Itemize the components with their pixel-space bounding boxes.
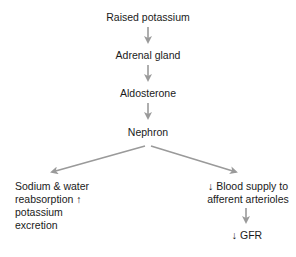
node-text-line: ↓ Blood supply to: [207, 180, 289, 193]
arrow-right-branch: [151, 146, 236, 172]
node-text-line: afferent arterioles: [207, 193, 289, 206]
node-aldosterone: Aldosterone: [120, 87, 176, 100]
node-adrenal-gland: Adrenal gland: [116, 49, 181, 62]
node-blood-supply: ↓ Blood supply to afferent arterioles: [207, 180, 289, 206]
node-gfr: ↓ GFR: [232, 229, 262, 242]
node-text-line: Sodium & water: [15, 180, 89, 193]
node-nephron: Nephron: [128, 126, 168, 139]
node-text-line: reabsorption ↑: [15, 193, 89, 206]
arrow-left-branch: [52, 146, 145, 172]
node-text-line: potassium: [15, 206, 89, 219]
node-text-line: excretion: [15, 219, 89, 232]
node-raised-potassium: Raised potassium: [106, 11, 189, 24]
node-sodium-water-reabsorption: Sodium & water reabsorption ↑ potassium …: [15, 180, 89, 232]
